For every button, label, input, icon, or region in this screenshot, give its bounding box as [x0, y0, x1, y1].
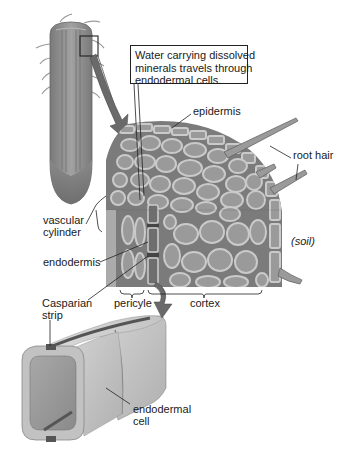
label-epidermis: epidermis [193, 105, 241, 117]
cell-detail-arrow [154, 282, 172, 318]
label-endodermis: endodermis [43, 256, 100, 268]
label-cylinder: cylinder [43, 226, 81, 238]
callout-line-1: Water carrying dissolved [135, 49, 243, 62]
label-endodermal: endodermal [133, 403, 191, 415]
zoom-arrow [90, 54, 128, 140]
callout-box: Water carrying dissolved minerals travel… [130, 45, 248, 84]
label-soil: (soil) [291, 235, 315, 247]
callout-line-2: minerals travels through [135, 62, 243, 75]
label-vascular: vascular [43, 214, 84, 226]
label-cortex: cortex [190, 297, 220, 309]
label-pericycle: pericyle [114, 297, 152, 309]
label-strip: strip [42, 309, 63, 321]
label-cell: cell [133, 415, 150, 427]
callout-line-3: endodermal cells. [135, 74, 243, 87]
label-root-hair: root hair [293, 149, 333, 161]
root-endodermis-diagram: Water carrying dissolved minerals travel… [0, 0, 346, 450]
label-casparian: Casparian [42, 297, 92, 309]
